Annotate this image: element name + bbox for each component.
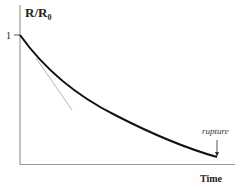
chart: 1 R/R0 rupture Time bbox=[0, 0, 245, 187]
x-axis-label: Time bbox=[200, 173, 223, 184]
y-axis-label: R/R0 bbox=[25, 5, 51, 22]
decay-curve bbox=[20, 35, 217, 157]
y-tick-label: 1 bbox=[6, 30, 11, 41]
rupture-label: rupture bbox=[202, 126, 229, 136]
